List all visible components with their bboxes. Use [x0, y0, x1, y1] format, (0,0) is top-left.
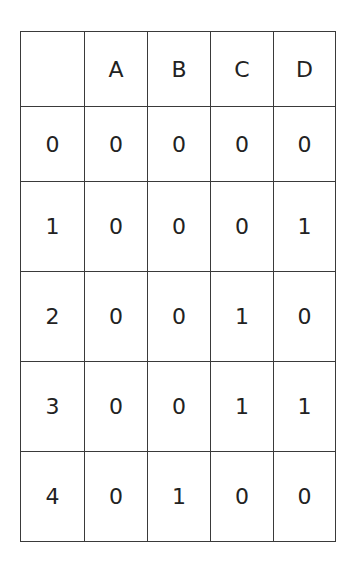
table-row: 1 0 0 0 1 [21, 182, 336, 272]
header-row: A B C D [21, 32, 336, 107]
table-cell: 0 [148, 107, 211, 182]
table-cell: 1 [211, 272, 274, 362]
table-row: 3 0 0 1 1 [21, 362, 336, 452]
table-cell: 0 [274, 452, 336, 542]
table-cell: 0 [148, 272, 211, 362]
table-row: 4 0 1 0 0 [21, 452, 336, 542]
header-cell-corner [21, 32, 85, 107]
table-cell: 0 [274, 272, 336, 362]
row-index-cell: 0 [21, 107, 85, 182]
table-row: 2 0 0 1 0 [21, 272, 336, 362]
table-cell: 0 [85, 452, 148, 542]
table-cell: 1 [274, 182, 336, 272]
table-cell: 1 [211, 362, 274, 452]
header-cell-d: D [274, 32, 336, 107]
table-cell: 0 [85, 272, 148, 362]
table-cell: 0 [148, 182, 211, 272]
table-cell: 0 [211, 452, 274, 542]
row-index-cell: 3 [21, 362, 85, 452]
table-cell: 0 [211, 107, 274, 182]
table-cell: 1 [274, 362, 336, 452]
truth-table: A B C D 0 0 0 0 0 1 0 0 0 1 2 0 0 1 0 3 … [20, 31, 336, 542]
header-cell-a: A [85, 32, 148, 107]
table-cell: 0 [148, 362, 211, 452]
table-cell: 0 [85, 182, 148, 272]
table-cell: 1 [148, 452, 211, 542]
row-index-cell: 2 [21, 272, 85, 362]
table-cell: 0 [85, 362, 148, 452]
table-cell: 0 [274, 107, 336, 182]
row-index-cell: 4 [21, 452, 85, 542]
header-cell-b: B [148, 32, 211, 107]
row-index-cell: 1 [21, 182, 85, 272]
table-cell: 0 [85, 107, 148, 182]
table-cell: 0 [211, 182, 274, 272]
table-row: 0 0 0 0 0 [21, 107, 336, 182]
header-cell-c: C [211, 32, 274, 107]
